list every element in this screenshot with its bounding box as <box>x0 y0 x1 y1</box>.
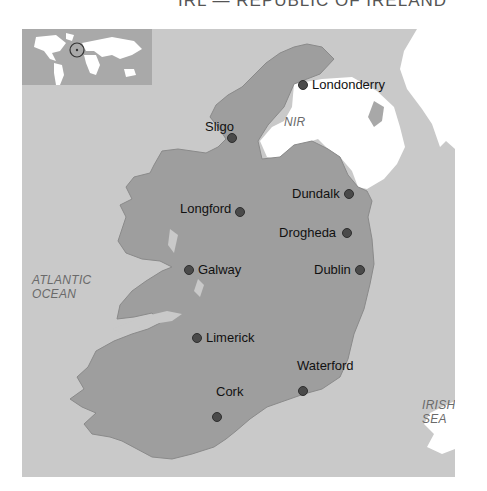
city-dot <box>342 228 352 238</box>
landmass <box>22 29 455 477</box>
city-longford: Longford <box>180 199 245 217</box>
city-dot <box>344 189 354 199</box>
city-dundalk: Dundalk <box>292 186 354 201</box>
city-cork: Cork <box>212 398 222 422</box>
city-limerick: Limerick <box>192 330 254 345</box>
city-sligo: Sligo <box>206 133 237 143</box>
label-irish-sea: IRISH SEA <box>422 398 455 426</box>
label-nir: NIR <box>284 115 306 129</box>
city-galway: Galway <box>184 262 241 277</box>
city-dublin: Dublin <box>314 262 365 277</box>
city-dot <box>298 80 308 90</box>
city-dot <box>184 265 194 275</box>
city-dot <box>235 207 245 217</box>
city-dot <box>212 412 222 422</box>
map-title: IRL — REPUBLIC OF IRELAND <box>178 0 447 11</box>
city-waterford: Waterford <box>298 372 308 396</box>
world-map-icon <box>22 29 152 85</box>
city-dot <box>355 265 365 275</box>
map: NIR ATLANTIC OCEAN IRISH SEA Londonderry… <box>22 29 455 477</box>
city-dot <box>227 133 237 143</box>
label-atlantic-ocean: ATLANTIC OCEAN <box>32 273 92 301</box>
city-dot <box>192 333 202 343</box>
city-dot <box>298 386 308 396</box>
city-londonderry: Londonderry <box>298 77 385 92</box>
city-drogheda: Drogheda <box>279 225 352 240</box>
world-inset-map <box>22 29 152 85</box>
scotland-coast <box>400 29 455 149</box>
